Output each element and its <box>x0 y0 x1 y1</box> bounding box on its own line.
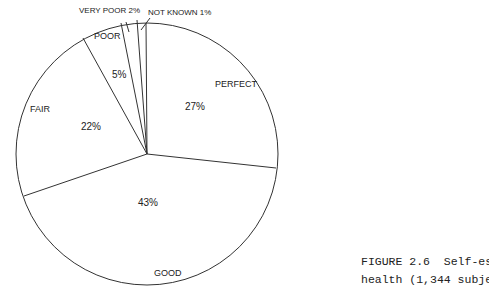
pct-perfect: 27% <box>185 101 205 112</box>
caption-line-2: health (1,344 subjects) <box>361 271 489 289</box>
label-good: GOOD <box>154 268 182 278</box>
slice-divider-verypoor-notknown <box>137 20 147 154</box>
pct-poor: 5% <box>112 69 126 80</box>
leader-not-known <box>141 18 150 30</box>
label-perfect: PERFECT <box>215 79 257 89</box>
slice-divider-good-fair <box>24 154 147 196</box>
slice-divider-notknown-perfect <box>146 23 147 154</box>
pct-fair: 22% <box>81 121 101 132</box>
leader-very-poor <box>126 22 129 32</box>
slice-divider-fair-poor <box>83 38 147 154</box>
slice-divider-poor-verypoor <box>121 23 147 154</box>
label-fair: FAIR <box>30 104 50 114</box>
label-not-known: NOT KNOWN 1% <box>148 8 211 17</box>
pct-good: 43% <box>138 197 158 208</box>
label-very-poor: VERY POOR 2% <box>79 6 140 15</box>
slice-divider-perfect-good <box>147 154 276 168</box>
caption-line-1: FIGURE 2.6 Self-estimate of present <box>361 253 489 271</box>
figure-caption: FIGURE 2.6 Self-estimate of present heal… <box>361 253 489 289</box>
label-poor: POOR <box>94 31 121 41</box>
